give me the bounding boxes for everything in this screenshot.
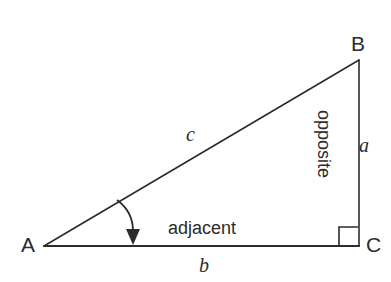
triangle-diagram: A B C c a b adjacent opposite [0,0,391,282]
vertex-label-c: C [366,234,381,255]
angle-arrowhead-icon [126,229,140,245]
vertex-label-a: A [21,234,35,255]
opposite-text-label: opposite [315,110,333,178]
right-angle-marker-icon [339,227,358,246]
angle-arrow-icon [117,200,133,231]
adjacent-text-label: adjacent [168,219,236,237]
side-label-opposite-a: a [359,135,369,155]
side-label-hypotenuse-c: c [186,124,195,144]
side-label-adjacent-b: b [199,255,209,275]
vertex-label-b: B [351,33,365,54]
